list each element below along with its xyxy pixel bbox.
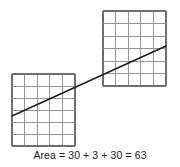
grid-figure xyxy=(0,0,180,167)
figure-container: Area = 30 + 3 + 30 = 63 xyxy=(0,0,180,167)
caption-text: Area = 30 + 3 + 30 = 63 xyxy=(0,149,180,162)
diagonal-line-layer xyxy=(12,46,166,116)
grid-layer xyxy=(12,11,166,146)
diagonal-line xyxy=(12,46,166,116)
